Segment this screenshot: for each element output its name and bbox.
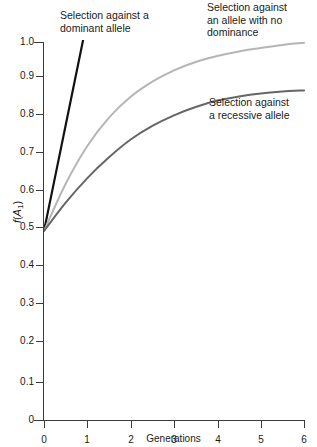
annotation-nodominance-line3: dominance bbox=[207, 26, 315, 39]
annotation-dominant-line2: dominant allele bbox=[60, 22, 190, 35]
annotation-dominant-allele: Selection against a dominant allele bbox=[60, 9, 190, 34]
annotation-recessive-allele: Selection against a recessive allele bbox=[209, 96, 315, 121]
allele-frequency-chart: 1.00.90.80.70.60.50.40.30.20.10 0123456 … bbox=[0, 0, 317, 447]
annotation-recessive-line1: Selection against bbox=[209, 96, 315, 109]
annotation-dominant-line1: Selection against a bbox=[60, 9, 190, 22]
annotation-no-dominance: Selection against an allele with no domi… bbox=[207, 1, 315, 39]
annotation-nodominance-line1: Selection against bbox=[207, 1, 315, 14]
chart-curves-layer bbox=[0, 0, 317, 447]
annotation-nodominance-line2: an allele with no bbox=[207, 14, 315, 27]
curve-selection-against-no-dominance bbox=[44, 43, 304, 231]
annotation-recessive-line2: a recessive allele bbox=[209, 109, 315, 122]
